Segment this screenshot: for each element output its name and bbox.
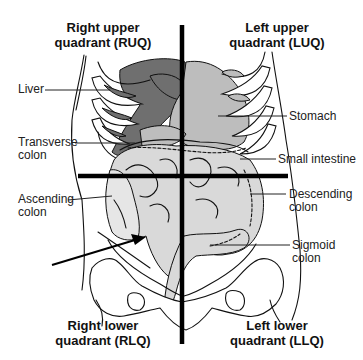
transverse-colon-line2: colon bbox=[18, 149, 78, 162]
descending-colon-line2: colon bbox=[289, 201, 352, 214]
stomach-text: Stomach bbox=[289, 110, 336, 123]
label-small-intestine: Small intestine bbox=[278, 153, 356, 166]
label-liver: Liver bbox=[18, 83, 44, 96]
ruq-line2: quadrant (RUQ) bbox=[48, 35, 158, 50]
luq-line1: Left upper bbox=[222, 20, 332, 35]
label-transverse-colon: Transverse colon bbox=[18, 136, 78, 162]
liver-text: Liver bbox=[18, 83, 44, 96]
quadrant-label-llq: Left lower quadrant (LLQ) bbox=[222, 318, 332, 348]
label-stomach: Stomach bbox=[289, 110, 336, 123]
ruq-line1: Right upper bbox=[48, 20, 158, 35]
sigmoid-colon-line2: colon bbox=[292, 252, 335, 265]
quadrant-label-ruq: Right upper quadrant (RUQ) bbox=[48, 20, 158, 50]
luq-line2: quadrant (LUQ) bbox=[222, 35, 332, 50]
quadrant-label-luq: Left upper quadrant (LUQ) bbox=[222, 20, 332, 50]
llq-line2: quadrant (LLQ) bbox=[222, 333, 332, 348]
label-descending-colon: Descending colon bbox=[289, 188, 352, 214]
ascending-colon-line2: colon bbox=[18, 206, 74, 219]
label-sigmoid-colon: Sigmoid colon bbox=[292, 239, 335, 265]
small-intestine-text: Small intestine bbox=[278, 153, 356, 166]
appendix-pointer-arrow bbox=[52, 240, 135, 265]
quadrant-label-rlq: Right lower quadrant (RLQ) bbox=[48, 318, 158, 348]
label-ascending-colon: Ascending colon bbox=[18, 193, 74, 219]
abdomen-illustration bbox=[0, 0, 363, 360]
llq-line1: Left lower bbox=[222, 318, 332, 333]
rlq-line1: Right lower bbox=[48, 318, 158, 333]
rlq-line2: quadrant (RLQ) bbox=[48, 333, 158, 348]
